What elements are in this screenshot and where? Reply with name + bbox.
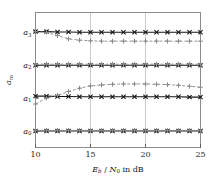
- chart-canvas: 10152025 a0a1a2a3 Eb / N0 in dB am: [0, 0, 214, 186]
- x-tick-label-20: 20: [140, 150, 150, 159]
- chart-figure: 10152025 a0a1a2a3 Eb / N0 in dB am: [0, 0, 214, 186]
- x-tick-label-25: 25: [195, 150, 205, 159]
- series-line-solid-cross-a1: [36, 96, 201, 97]
- x-tick-label-15: 15: [85, 150, 95, 159]
- x-tick-label-10: 10: [30, 150, 40, 159]
